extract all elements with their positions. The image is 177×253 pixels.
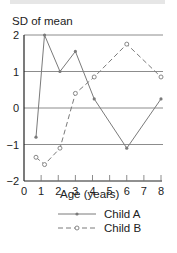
data-point-child-b xyxy=(43,163,47,167)
data-point-child-a xyxy=(34,136,37,139)
legend-item-child-b: Child B xyxy=(52,221,141,235)
x-tick-label: 0 xyxy=(21,185,27,197)
data-point-child-a xyxy=(74,50,77,53)
solid-line-dot-marker-icon xyxy=(52,207,102,221)
x-axis-label: Age (years) xyxy=(60,188,119,200)
y-tick-label: 1 xyxy=(13,66,19,78)
data-point-child-b xyxy=(58,146,62,150)
y-tick-label: −2 xyxy=(6,175,19,187)
series-line-child-b xyxy=(36,44,161,165)
data-point-child-a xyxy=(93,97,96,100)
legend: Child A Child B xyxy=(52,207,141,235)
data-point-child-a xyxy=(125,147,128,150)
data-point-child-b xyxy=(34,155,38,159)
legend-item-child-a: Child A xyxy=(52,207,141,221)
y-tick-label: 2 xyxy=(13,29,19,41)
data-point-child-a xyxy=(58,70,61,73)
x-tick-label: 6 xyxy=(124,185,130,197)
data-point-child-b xyxy=(125,42,129,46)
x-tick-label: 7 xyxy=(141,185,147,197)
data-point-child-b xyxy=(92,75,96,79)
dashed-line-open-circle-icon xyxy=(52,221,102,235)
data-point-child-b xyxy=(73,91,77,95)
y-tick-label: 0 xyxy=(13,102,19,114)
series-line-child-a xyxy=(36,35,161,148)
x-tick-label: 8 xyxy=(158,185,164,197)
data-point-child-b xyxy=(159,75,163,79)
legend-label-child-b: Child B xyxy=(104,222,141,234)
legend-label-child-a: Child A xyxy=(104,208,140,220)
data-point-child-a xyxy=(159,97,162,100)
x-tick-label: 1 xyxy=(38,185,44,197)
data-point-child-a xyxy=(43,33,46,36)
y-tick-label: −1 xyxy=(6,139,19,151)
